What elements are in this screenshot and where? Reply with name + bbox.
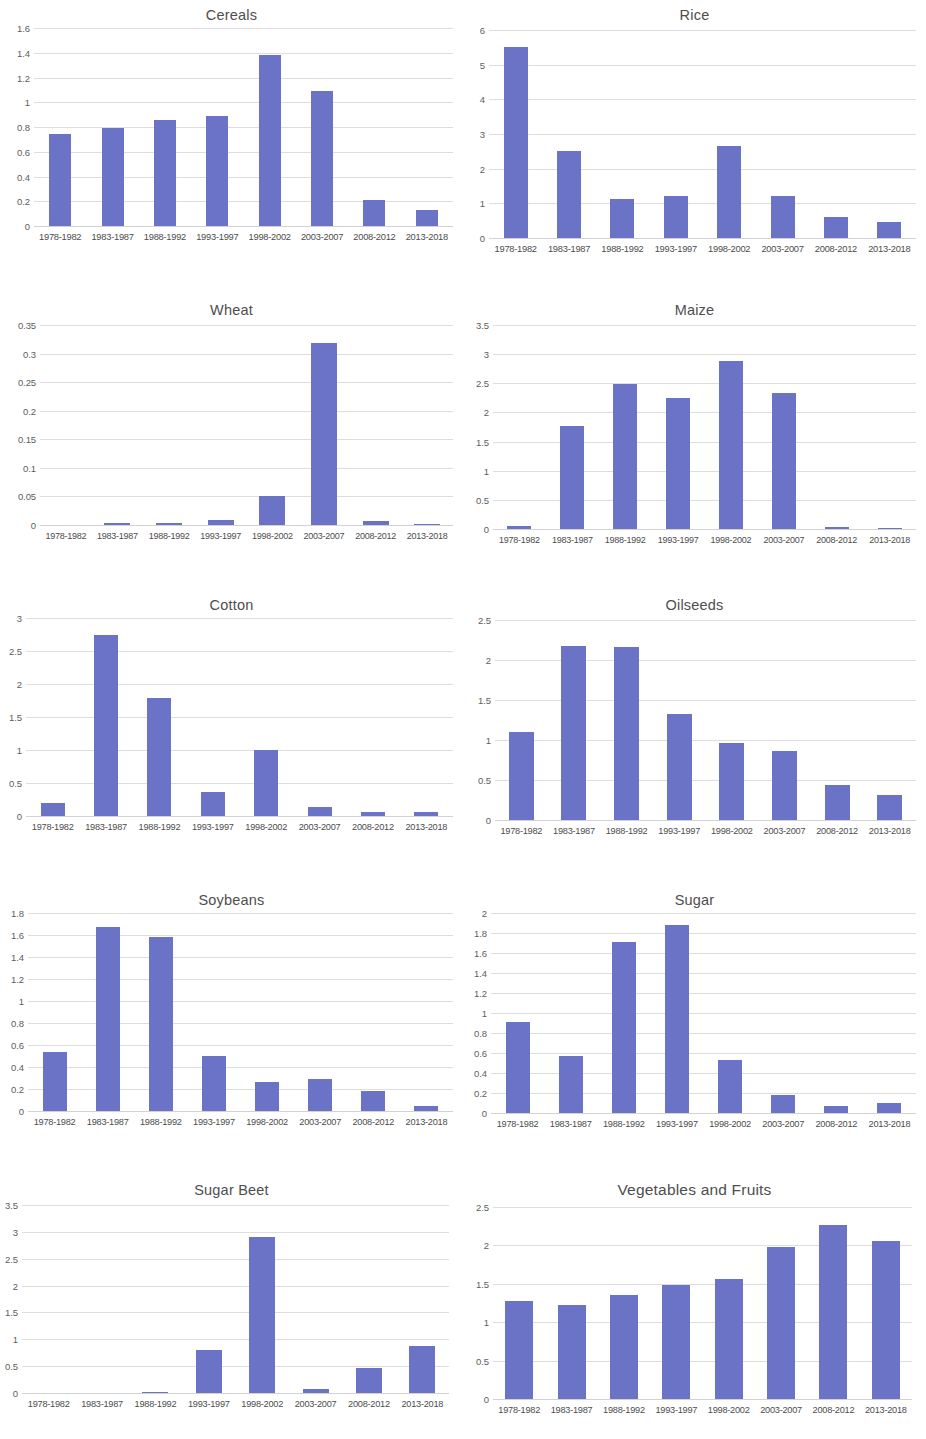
y-axis-tick-label: 1.4 bbox=[11, 952, 24, 963]
gridline bbox=[493, 354, 916, 355]
bar bbox=[303, 1389, 329, 1393]
y-axis-tick-label: 0.2 bbox=[474, 1088, 487, 1099]
x-axis-tick-label: 1983-1987 bbox=[553, 826, 595, 836]
x-axis-tick-label: 1998-2002 bbox=[246, 1117, 288, 1127]
x-axis-tick-label: 1993-1997 bbox=[658, 535, 699, 545]
chart-panel-sugar: Sugar00.20.40.60.811.21.41.61.821978-198… bbox=[463, 885, 926, 1175]
y-axis-tick-label: 5 bbox=[480, 59, 485, 70]
bar bbox=[94, 635, 118, 816]
gridline bbox=[495, 620, 916, 621]
gridline bbox=[495, 780, 916, 781]
gridline bbox=[491, 1053, 916, 1054]
plot-area-wheat bbox=[40, 325, 453, 525]
bar bbox=[255, 1082, 279, 1111]
gridline bbox=[491, 1093, 916, 1094]
x-axis-tick-label: 1988-1992 bbox=[603, 1119, 645, 1129]
chart-title-sugar: Sugar bbox=[463, 885, 926, 913]
chart-title-rice: Rice bbox=[463, 0, 926, 28]
bar bbox=[558, 1305, 586, 1399]
bar bbox=[772, 751, 797, 820]
x-axis-tick-label: 1993-1997 bbox=[200, 531, 241, 541]
y-axis-tick-label: 3.5 bbox=[5, 1200, 18, 1211]
bar bbox=[196, 1350, 222, 1394]
bar bbox=[208, 520, 234, 525]
bar bbox=[311, 343, 337, 525]
bar bbox=[149, 937, 173, 1111]
x-axis-labels-sugar: 1978-19821983-19871988-19921993-19971998… bbox=[491, 1119, 916, 1133]
bar bbox=[718, 1060, 742, 1113]
gridline bbox=[493, 500, 916, 501]
chart-panel-oilseeds: Oilseeds00.511.522.51978-19821983-198719… bbox=[463, 590, 926, 885]
y-axis-tick-label: 0 bbox=[31, 520, 36, 531]
plot-area-oilseeds bbox=[495, 620, 916, 820]
bar bbox=[560, 426, 584, 529]
y-axis-tick-label: 1 bbox=[486, 735, 491, 746]
bar bbox=[561, 646, 586, 820]
plot-area-vegetables-and-fruits bbox=[493, 1207, 912, 1399]
gridline bbox=[491, 973, 916, 974]
x-axis-tick-label: 2013-2018 bbox=[407, 531, 448, 541]
gridline bbox=[28, 1067, 453, 1068]
x-axis-tick-label: 1993-1997 bbox=[658, 826, 700, 836]
bar bbox=[614, 647, 639, 820]
y-axis-tick-label: 0.5 bbox=[476, 494, 489, 505]
gridline bbox=[491, 1113, 916, 1114]
x-axis-tick-label: 1993-1997 bbox=[188, 1399, 230, 1409]
chart-panel-vegetables-and-fruits: Vegetables and Fruits00.511.522.51978-19… bbox=[463, 1175, 926, 1439]
bar bbox=[506, 1022, 530, 1113]
y-axis-tick-label: 0.4 bbox=[17, 171, 30, 182]
y-axis-tick-label: 1.6 bbox=[11, 930, 24, 941]
gridline bbox=[28, 979, 453, 980]
bar bbox=[610, 1295, 638, 1399]
bar bbox=[612, 942, 636, 1113]
gridline bbox=[22, 1366, 449, 1367]
gridline bbox=[493, 1245, 912, 1246]
y-axis-tick-label: 1 bbox=[484, 465, 489, 476]
y-axis-tick-label: 2 bbox=[480, 163, 485, 174]
bar bbox=[771, 196, 795, 238]
x-axis-tick-label: 1998-2002 bbox=[249, 232, 291, 242]
bar bbox=[613, 384, 637, 529]
gridline bbox=[40, 496, 453, 497]
gridline bbox=[34, 127, 453, 128]
bar bbox=[662, 1285, 690, 1399]
x-axis-labels-maize: 1978-19821983-19871988-19921993-19971998… bbox=[493, 535, 916, 549]
y-axis-tick-label: 3 bbox=[13, 1226, 18, 1237]
bar bbox=[102, 128, 124, 226]
y-axis-tick-label: 0.5 bbox=[9, 778, 22, 789]
bar bbox=[665, 925, 689, 1113]
chart-title-soybeans: Soybeans bbox=[0, 885, 463, 913]
bar bbox=[719, 743, 744, 820]
y-axis-tick-label: 0.6 bbox=[11, 1040, 24, 1051]
bar bbox=[717, 146, 741, 238]
x-axis-tick-label: 1978-1982 bbox=[495, 244, 537, 254]
y-axis-tick-label: 1.4 bbox=[17, 47, 30, 58]
y-axis-tick-label: 1 bbox=[484, 1317, 489, 1328]
y-axis-tick-label: 0 bbox=[19, 1106, 24, 1117]
chart-panel-sugar-beet: Sugar Beet00.511.522.533.51978-19821983-… bbox=[0, 1175, 463, 1439]
chart-panel-maize: Maize00.511.522.533.51978-19821983-19871… bbox=[463, 295, 926, 590]
y-axis-tick-label: 0.25 bbox=[18, 377, 36, 388]
y-axis-tick-label: 0 bbox=[480, 233, 485, 244]
gridline bbox=[28, 1111, 453, 1112]
x-axis-tick-label: 1993-1997 bbox=[193, 1117, 235, 1127]
gridline bbox=[26, 618, 453, 619]
y-axis-tick-label: 2.5 bbox=[476, 378, 489, 389]
bar bbox=[557, 151, 581, 238]
bar bbox=[767, 1247, 795, 1399]
gridline bbox=[22, 1205, 449, 1206]
bar bbox=[666, 398, 690, 529]
x-axis-tick-label: 2003-2007 bbox=[299, 822, 341, 832]
y-axis-tick-label: 0 bbox=[13, 1388, 18, 1399]
gridline bbox=[40, 325, 453, 326]
x-axis-tick-label: 1983-1987 bbox=[91, 232, 133, 242]
y-axis-tick-label: 0.2 bbox=[11, 1084, 24, 1095]
x-axis-tick-label: 1988-1992 bbox=[606, 826, 648, 836]
x-axis-tick-label: 1998-2002 bbox=[252, 531, 293, 541]
bar bbox=[416, 210, 438, 226]
bar bbox=[825, 527, 849, 529]
bar bbox=[877, 795, 902, 820]
x-axis-tick-label: 1983-1987 bbox=[85, 822, 127, 832]
bar bbox=[772, 393, 796, 529]
x-axis-tick-label: 1978-1982 bbox=[499, 535, 540, 545]
